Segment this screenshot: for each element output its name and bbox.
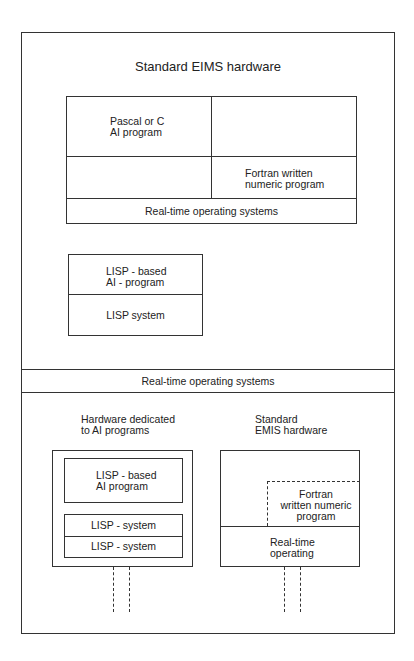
emis-hardware-caption: Standard EMIS hardware: [255, 414, 327, 436]
grid-footer-divider: [66, 198, 357, 199]
middle-band-top-line: [21, 369, 395, 370]
emis-os-line-2: operating: [270, 548, 315, 559]
lisp-based-ai-program-label: LISP - based AI - program: [106, 266, 167, 288]
pascal-c-ai-program-label: Pascal or C AI program: [110, 116, 164, 138]
ai-hardware-caption: Hardware dedicated to AI programs: [81, 414, 175, 436]
fortran-numeric-program-label: Fortran written numeric program: [245, 168, 324, 190]
middle-band-bottom-line: [21, 392, 395, 393]
emis-connector-left: [284, 567, 285, 612]
fortran-written-numeric-program-label: Fortran written numeric program: [275, 489, 357, 522]
lisp-system-label: LISP system: [68, 310, 203, 321]
middle-band-os-label: Real-time operating systems: [21, 376, 395, 387]
emis-connector-right: [300, 567, 301, 612]
lisp-system-label-1: LISP - system: [64, 520, 183, 531]
real-time-operating-label: Real-time operating: [270, 537, 315, 559]
lisp-ai-program-line-2: AI program: [96, 481, 157, 492]
grid-footer-os-label: Real-time operating systems: [66, 206, 357, 217]
lisp-system-stack-divider: [64, 536, 183, 537]
lisp-system-label-2: LISP - system: [64, 541, 183, 552]
ai-hardware-connector-left: [113, 567, 114, 612]
grid-horizontal-divider: [66, 156, 357, 157]
lisp-box-divider: [68, 294, 203, 295]
grid-vertical-divider: [211, 96, 212, 199]
lisp-ai-program-label: LISP - based AI program: [96, 470, 157, 492]
ai-hardware-connector-right: [129, 567, 130, 612]
lisp-program-line-2: AI - program: [106, 277, 167, 288]
pascal-line-2: AI program: [110, 127, 164, 138]
ai-hardware-caption-line-2: to AI programs: [81, 425, 175, 436]
fortran-dashed-left: [267, 481, 268, 526]
fortran-dashed-top: [267, 481, 360, 482]
fortran-program-line-3: program: [275, 511, 357, 522]
emis-hardware-caption-line-2: EMIS hardware: [255, 425, 327, 436]
top-section-title: Standard EIMS hardware: [21, 61, 395, 72]
emis-os-divider: [220, 526, 360, 527]
fortran-line-2: numeric program: [245, 179, 324, 190]
